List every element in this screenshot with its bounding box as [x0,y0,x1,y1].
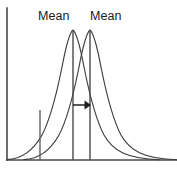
normal-curve-left [7,30,160,160]
normal-curve-right [24,30,177,160]
distribution-plot-canvas [0,0,177,172]
mean-label-left: Mean [38,9,70,23]
mean-label-right: Mean [90,9,122,23]
distribution-shift-figure: Mean Mean [0,0,177,172]
